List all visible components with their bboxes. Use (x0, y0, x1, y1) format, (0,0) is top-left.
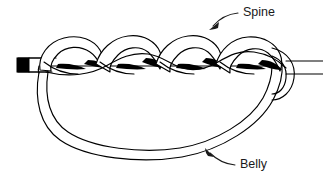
belly-annotation: Belly (205, 148, 268, 171)
spine-arrowhead (209, 22, 219, 30)
spine-label: Spine (243, 5, 275, 19)
braided-spine (38, 36, 294, 100)
cut-end-cap (17, 58, 29, 72)
spine-annotation: Spine (209, 5, 275, 30)
knot-diagram-figure: Spine Belly (0, 0, 323, 181)
belly-loop (37, 64, 282, 160)
knot-diagram-svg: Spine Belly (0, 0, 323, 181)
belly-label: Belly (240, 157, 268, 171)
belly-leader-line (210, 153, 235, 165)
